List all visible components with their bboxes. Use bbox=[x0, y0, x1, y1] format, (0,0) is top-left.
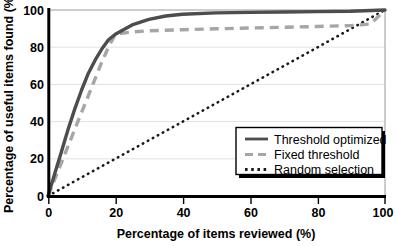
y-axis-title: Percentage of useful items found (%) bbox=[2, 0, 16, 213]
legend-label-fixed-threshold: Fixed threshold bbox=[274, 148, 360, 162]
legend-label-random-selection: Random selection bbox=[274, 163, 374, 177]
legend: Threshold optimized Fixed threshold Rand… bbox=[236, 128, 387, 179]
x-tick-label-0: 0 bbox=[45, 206, 52, 220]
x-tick-label-60: 60 bbox=[244, 206, 258, 220]
x-tick-label-80: 80 bbox=[311, 206, 325, 220]
y-tick-label-60: 60 bbox=[30, 78, 44, 92]
x-tick-label-100: 100 bbox=[373, 206, 394, 220]
chart-canvas: 0 20 40 60 80 100 0 20 40 60 80 100 Perc… bbox=[0, 0, 396, 246]
x-axis-ticks bbox=[49, 198, 385, 204]
y-tick-label-80: 80 bbox=[30, 41, 44, 55]
x-tick-label-40: 40 bbox=[177, 206, 191, 220]
y-tick-label-100: 100 bbox=[23, 4, 44, 18]
legend-label-threshold-optimized: Threshold optimized bbox=[274, 133, 387, 147]
x-tick-label-20: 20 bbox=[109, 206, 123, 220]
x-axis-title: Percentage of items reviewed (%) bbox=[117, 227, 316, 241]
y-tick-label-0: 0 bbox=[37, 190, 44, 204]
y-tick-label-20: 20 bbox=[30, 152, 44, 166]
y-tick-label-40: 40 bbox=[30, 115, 44, 129]
chart-figure: 0 20 40 60 80 100 0 20 40 60 80 100 Perc… bbox=[0, 0, 396, 246]
